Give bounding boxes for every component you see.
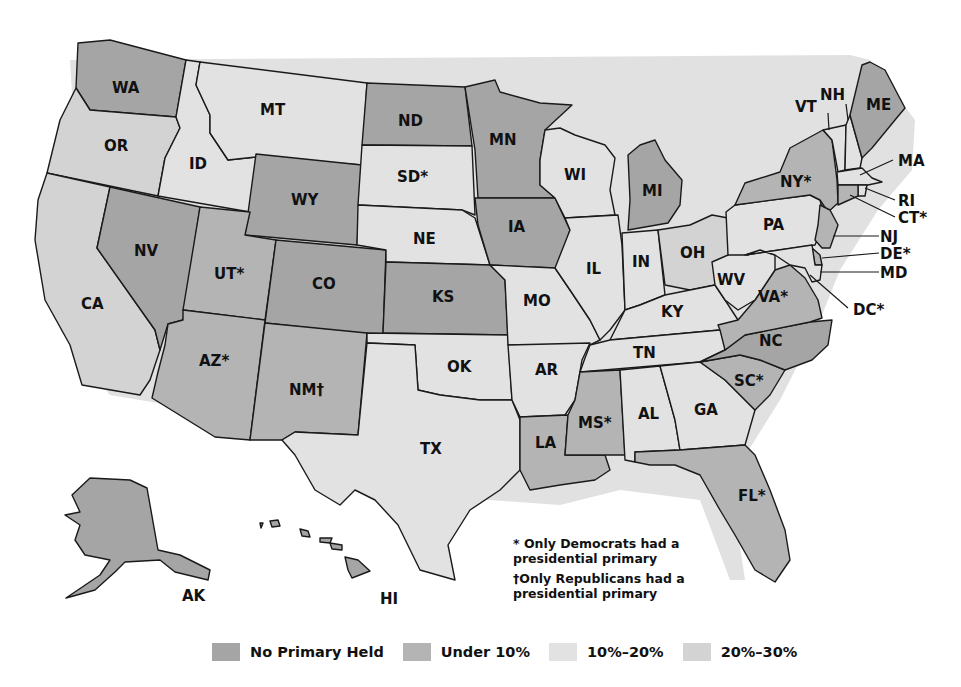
- label-il: IL: [586, 260, 602, 278]
- legend-label: No Primary Held: [250, 644, 384, 660]
- label-az: AZ*: [199, 352, 229, 370]
- label-wy: WY: [291, 191, 320, 209]
- label-ky: KY: [661, 303, 685, 321]
- map-legend: No Primary Held Under 10% 10%–20% 20%–30…: [212, 643, 816, 661]
- label-mt: MT: [260, 101, 286, 119]
- label-ut: UT*: [214, 265, 244, 283]
- footnote-republicans-only: †Only Republicans had a presidential pri…: [513, 571, 723, 601]
- label-co: CO: [312, 275, 336, 293]
- label-in: IN: [632, 253, 650, 271]
- state-ri[interactable]: [858, 185, 867, 196]
- label-ms: MS*: [578, 414, 612, 432]
- legend-label: Under 10%: [441, 644, 530, 660]
- label-id: ID: [189, 155, 207, 173]
- label-mi: MI: [642, 182, 663, 200]
- label-sc: SC*: [734, 372, 764, 390]
- label-oh: OH: [680, 244, 705, 262]
- label-ny: NY*: [780, 173, 811, 191]
- footnotes: * Only Democrats had a presidential prim…: [513, 536, 723, 606]
- footnote-democrats-only: * Only Democrats had a presidential prim…: [513, 536, 723, 566]
- label-nv: NV: [134, 242, 159, 260]
- label-ok: OK: [447, 358, 473, 376]
- label-de: DE*: [880, 245, 911, 263]
- legend-item-20-30: 20%–30%: [683, 643, 798, 661]
- state-hi[interactable]: [260, 520, 370, 578]
- label-nd: ND: [398, 112, 423, 130]
- legend-label: 20%–30%: [721, 644, 798, 660]
- label-hi: HI: [380, 590, 398, 608]
- label-ca: CA: [81, 295, 104, 313]
- label-vt: VT: [795, 98, 818, 116]
- us-primary-turnout-map: WA OR CA ID NV MT WY UT* CO AZ* NM† ND S…: [0, 0, 961, 687]
- label-mo: MO: [523, 292, 551, 310]
- label-va: VA*: [758, 288, 788, 306]
- label-nh: NH: [820, 86, 845, 104]
- label-dc: DC*: [853, 301, 884, 319]
- label-ct: CT*: [898, 209, 927, 227]
- label-nc: NC: [759, 332, 783, 350]
- label-nj: NJ: [880, 228, 898, 246]
- legend-swatch-20-30: [683, 643, 711, 661]
- legend-item-no-primary: No Primary Held: [212, 643, 384, 661]
- label-me: ME: [866, 96, 891, 114]
- label-fl: FL*: [738, 487, 766, 505]
- label-or: OR: [104, 137, 129, 155]
- label-ak: AK: [182, 587, 207, 605]
- state-ak[interactable]: [65, 478, 210, 598]
- legend-swatch-under-10: [403, 643, 431, 661]
- label-pa: PA: [763, 216, 785, 234]
- label-tx: TX: [420, 440, 442, 458]
- label-ks: KS: [432, 288, 454, 306]
- legend-item-under-10: Under 10%: [403, 643, 530, 661]
- label-nm: NM†: [289, 381, 324, 399]
- label-md: MD: [880, 264, 907, 282]
- label-wa: WA: [112, 79, 140, 97]
- label-ri: RI: [898, 192, 915, 210]
- label-wi: WI: [564, 166, 586, 184]
- label-al: AL: [638, 405, 660, 423]
- label-sd: SD*: [397, 168, 428, 186]
- label-tn: TN: [633, 344, 656, 362]
- label-ma: MA: [898, 152, 925, 170]
- label-ga: GA: [694, 401, 718, 419]
- label-la: LA: [535, 434, 557, 452]
- label-wv: WV: [717, 271, 746, 289]
- label-ar: AR: [535, 361, 559, 379]
- legend-item-10-20: 10%–20%: [549, 643, 664, 661]
- state-az[interactable]: [152, 310, 265, 440]
- label-ne: NE: [413, 230, 436, 248]
- label-mn: MN: [489, 131, 516, 149]
- legend-swatch-10-20: [549, 643, 577, 661]
- label-ia: IA: [508, 218, 526, 236]
- legend-label: 10%–20%: [587, 644, 664, 660]
- legend-swatch-no-primary: [212, 643, 240, 661]
